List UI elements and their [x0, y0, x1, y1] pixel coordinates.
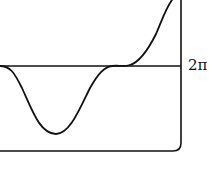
frame	[0, 0, 181, 151]
level-label-2pi: 2π	[188, 56, 207, 74]
function-curve	[0, 0, 172, 134]
diagram-canvas	[0, 0, 209, 170]
